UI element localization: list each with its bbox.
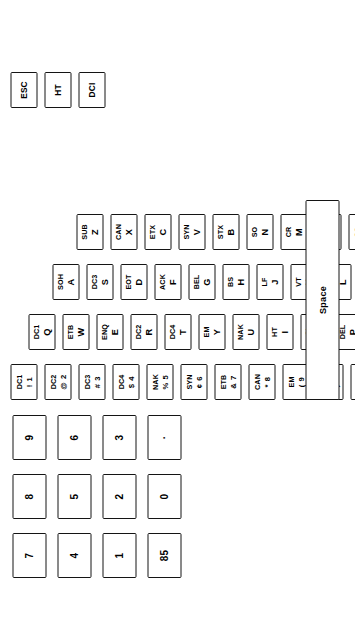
key-character-label: B — [226, 229, 235, 236]
key-character-label: % 5 — [161, 375, 169, 390]
key-number-6[interactable]: SYN¢ 6 — [180, 364, 207, 400]
key-control-label: NAK — [236, 324, 243, 340]
key-character-label: 5 — [69, 494, 79, 500]
key-character-label: E — [110, 329, 119, 335]
key-mod-HT[interactable]: HT — [44, 72, 71, 108]
key-number-1[interactable]: DC1! 1 — [10, 364, 37, 400]
key-letter-D[interactable]: EOTD — [120, 264, 147, 300]
key-character-label: ( 9 — [297, 377, 305, 388]
key-character-label: 3 — [114, 435, 124, 441]
numpad-key-7[interactable]: 7 — [12, 533, 46, 578]
key-letter-C[interactable]: ETXC — [144, 214, 171, 250]
key-control-label: SUB — [80, 224, 87, 239]
numpad-key-85[interactable]: 85 — [147, 533, 181, 578]
key-character-label: H — [236, 279, 245, 286]
key-character-label: 2 — [114, 494, 124, 500]
key-control-label: DC2 — [134, 325, 141, 340]
key-letter-N[interactable]: SON — [246, 214, 273, 250]
key-letter-M[interactable]: CRM — [280, 214, 307, 250]
key-number-2[interactable]: DC2@ 2 — [44, 364, 71, 400]
key-letter-Λ ·[interactable]: SOΛ · — [348, 214, 355, 250]
key-character-label: Z — [90, 229, 99, 235]
key-control-label: SYN — [182, 224, 189, 239]
key-control-label: DC2 — [49, 375, 56, 390]
key-control-label: ETB — [219, 375, 226, 390]
key-number-11[interactable]: FS— – — [350, 364, 355, 400]
key-letter-Y[interactable]: EMY — [198, 314, 225, 350]
key-letter-W[interactable]: ETBW — [62, 314, 89, 350]
key-character-label: 7 — [24, 553, 34, 559]
key-character-label: T — [178, 329, 187, 335]
key-character-label: N — [260, 229, 269, 236]
key-mod-ESC[interactable]: ESC — [10, 72, 37, 108]
key-number-3[interactable]: DC3# 3 — [78, 364, 105, 400]
key-number-5[interactable]: NAK% 5 — [146, 364, 173, 400]
key-character-label: 0 — [159, 494, 169, 500]
key-letter-R[interactable]: DC2R — [130, 314, 157, 350]
key-control-label: ETX — [148, 225, 155, 239]
key-character-label: ! 1 — [25, 377, 33, 388]
key-character-label: F — [168, 279, 177, 285]
key-control-label: NAK — [151, 374, 158, 390]
space-bar[interactable]: Space — [305, 200, 339, 400]
key-character-label: $ 4 — [127, 376, 135, 388]
key-number-7[interactable]: ETB& 7 — [214, 364, 241, 400]
key-letter-J[interactable]: LFJ — [256, 264, 283, 300]
key-letter-A[interactable]: SOHA — [52, 264, 79, 300]
key-control-label: EOT — [124, 274, 131, 289]
key-character-label: # 3 — [93, 376, 101, 388]
key-character-label: C — [158, 229, 167, 236]
numpad-key-0[interactable]: 0 — [147, 474, 181, 519]
key-character-label: 6 — [69, 435, 79, 441]
key-control-label: ACK — [158, 274, 165, 290]
key-control-label: EM — [202, 327, 209, 338]
key-mod-DCI[interactable]: DCI — [78, 72, 105, 108]
key-control-label: DCI — [87, 83, 95, 98]
key-letter-F[interactable]: ACKF — [154, 264, 181, 300]
key-letter-U[interactable]: NAKU — [232, 314, 259, 350]
numpad-key-·[interactable]: · — [147, 415, 181, 460]
key-character-label: J — [270, 279, 279, 284]
numpad-key-1[interactable]: 1 — [102, 533, 136, 578]
numpad-key-6[interactable]: 6 — [57, 415, 91, 460]
key-control-label: SO — [250, 227, 257, 238]
key-number-4[interactable]: DC4$ 4 — [112, 364, 139, 400]
key-control-label: VT — [294, 277, 301, 286]
key-character-label: @ 2 — [59, 374, 67, 390]
key-control-label: HT — [53, 84, 61, 95]
key-number-8[interactable]: CAN* 8 — [248, 364, 275, 400]
key-control-label: DC4 — [168, 325, 175, 340]
key-character-label: R — [144, 329, 153, 336]
key-letter-X[interactable]: CANX — [110, 214, 137, 250]
key-letter-V[interactable]: SYNV — [178, 214, 205, 250]
key-character-label: U — [246, 329, 255, 336]
key-letter-Q[interactable]: DC1Q — [28, 314, 55, 350]
key-letter-T[interactable]: DC4T — [164, 314, 191, 350]
key-letter-H[interactable]: BSH — [222, 264, 249, 300]
key-control-label: ETB — [66, 325, 73, 340]
key-character-label: Y — [212, 329, 221, 335]
key-letter-B[interactable]: STXB — [212, 214, 239, 250]
numpad-key-8[interactable]: 8 — [12, 474, 46, 519]
numpad-key-9[interactable]: 9 — [12, 415, 46, 460]
numpad-key-4[interactable]: 4 — [57, 533, 91, 578]
keyboard-diagram: 741858520963·DC1! 1DC2@ 2DC3# 3DC4$ 4NAK… — [0, 0, 355, 628]
key-letter-G[interactable]: BELG — [188, 264, 215, 300]
key-letter-S[interactable]: DC3S — [86, 264, 113, 300]
key-character-label: M — [294, 228, 303, 236]
key-character-label: S — [100, 279, 109, 285]
key-control-label: DC1 — [15, 375, 22, 390]
key-character-label: D — [134, 279, 143, 286]
key-character-label: Q — [42, 328, 51, 335]
key-letter-I[interactable]: HTI — [266, 314, 293, 350]
key-character-label: I — [280, 331, 289, 334]
numpad-key-3[interactable]: 3 — [102, 415, 136, 460]
key-character-label: V — [192, 229, 201, 235]
numpad-key-2[interactable]: 2 — [102, 474, 136, 519]
numpad-key-5[interactable]: 5 — [57, 474, 91, 519]
key-control-label: BEL — [192, 275, 199, 290]
key-control-label: BS — [226, 277, 233, 287]
key-character-label: 1 — [114, 553, 124, 559]
key-letter-E[interactable]: ENQE — [96, 314, 123, 350]
key-letter-Z[interactable]: SUBZ — [76, 214, 103, 250]
